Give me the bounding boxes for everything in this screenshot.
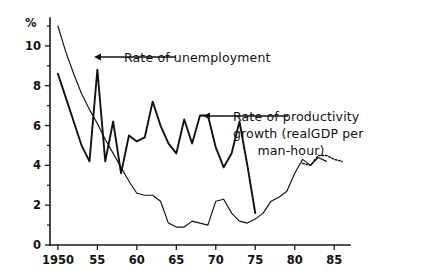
y-tick-label-0: 0 bbox=[33, 238, 41, 252]
annotation-layer: Rate of unemploymentRate of productivity… bbox=[94, 50, 364, 158]
y-tick-label-10: 10 bbox=[25, 39, 41, 53]
y-axis-unit-label: % bbox=[25, 16, 37, 30]
line-chart-figure: % 0246810 195055606570758085 Rate of une… bbox=[0, 0, 426, 278]
x-tick-label-85: 85 bbox=[326, 253, 342, 267]
x-axis-tick-labels: 195055606570758085 bbox=[42, 253, 342, 267]
y-tick-label-2: 2 bbox=[33, 198, 41, 212]
y-tick-label-6: 6 bbox=[33, 119, 41, 133]
annot-productivity-line-2: man-hour) bbox=[257, 143, 324, 158]
y-tick-label-4: 4 bbox=[33, 158, 41, 172]
x-tick-label-80: 80 bbox=[287, 253, 303, 267]
annot-productivity: Rate of productivitygrowth (realGDP perm… bbox=[203, 109, 364, 158]
x-tick-label-65: 65 bbox=[168, 253, 184, 267]
chart-container: % 0246810 195055606570758085 Rate of une… bbox=[0, 0, 426, 278]
annot-unemployment-line-0: Rate of unemployment bbox=[124, 50, 271, 65]
annot-productivity-line-1: growth (realGDP per bbox=[233, 126, 364, 141]
series-path-1 bbox=[311, 157, 327, 165]
x-tick-label-1950: 1950 bbox=[42, 253, 74, 267]
x-tick-label-70: 70 bbox=[208, 253, 224, 267]
annot-unemployment-arrowhead-icon bbox=[94, 53, 101, 60]
annot-productivity-line-0: Rate of productivity bbox=[233, 109, 360, 124]
x-tick-label-60: 60 bbox=[129, 253, 145, 267]
x-tick-label-55: 55 bbox=[89, 253, 105, 267]
annot-productivity-arrowhead-icon bbox=[203, 112, 210, 119]
y-axis-tick-labels: 0246810 bbox=[25, 39, 41, 252]
y-tick-label-8: 8 bbox=[33, 79, 41, 93]
x-tick-label-75: 75 bbox=[247, 253, 263, 267]
annot-unemployment: Rate of unemployment bbox=[94, 50, 271, 65]
series-path-3 bbox=[58, 70, 255, 213]
